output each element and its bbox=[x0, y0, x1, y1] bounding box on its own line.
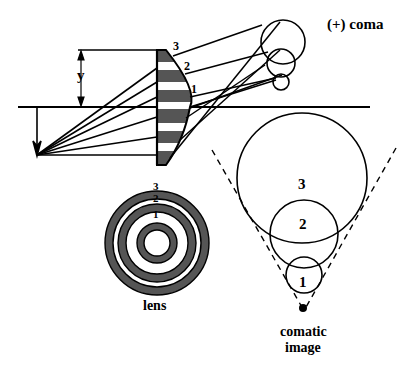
lens-zones-front-view bbox=[105, 191, 209, 295]
height-label: y bbox=[77, 67, 85, 83]
incident-rays bbox=[37, 68, 157, 155]
front-zone-2-label: 2 bbox=[153, 192, 159, 204]
comatic-label-line1: comatic bbox=[280, 324, 327, 339]
lens-zone-3-label: 3 bbox=[173, 39, 179, 53]
front-zone-1-label: 1 bbox=[153, 208, 159, 220]
image-circle-3-label: 3 bbox=[298, 176, 306, 192]
object-arrow bbox=[33, 107, 41, 156]
coma-diagram: y 3 2 1 (+ bbox=[0, 0, 413, 368]
title: (+) coma bbox=[327, 16, 384, 33]
lens-label: lens bbox=[143, 298, 167, 313]
front-zone-3-label: 3 bbox=[153, 180, 159, 192]
comatic-image-circles bbox=[237, 113, 367, 293]
image-circle-2-label: 2 bbox=[299, 216, 307, 232]
lens-zone-2-label: 2 bbox=[184, 59, 190, 73]
image-point bbox=[299, 304, 307, 312]
lens-zone-1-label: 1 bbox=[191, 82, 197, 96]
image-circle-1-label: 1 bbox=[299, 274, 307, 290]
comatic-label-line2: image bbox=[285, 340, 321, 355]
